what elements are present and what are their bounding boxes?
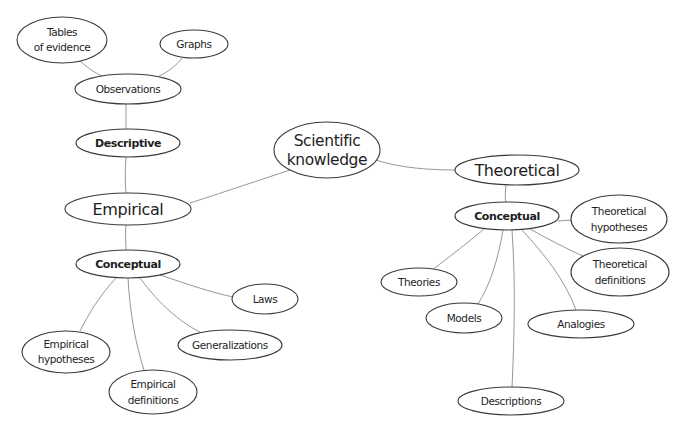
node-empirical-hypotheses[interactable]: Empirical hypotheses <box>22 331 110 373</box>
concept-map: Scientific knowledge Empirical Theoretic… <box>0 0 685 435</box>
node-label: of evidence <box>34 41 91 53</box>
edge-conceptual-theo-hypotheses <box>558 220 572 221</box>
node-theoretical-definitions[interactable]: Theoretical definitions <box>571 248 669 296</box>
node-label: Graphs <box>176 38 211 50</box>
edge-conceptual-models <box>478 230 503 304</box>
edge-conceptual-emp-hypotheses <box>80 278 116 331</box>
node-label: Empirical <box>43 338 88 350</box>
node-label: Theoretical <box>592 258 647 270</box>
node-descriptions[interactable]: Descriptions <box>458 387 564 415</box>
node-label: knowledge <box>287 151 367 169</box>
node-label: Models <box>447 312 482 324</box>
edge-conceptual-emp-definitions <box>128 278 144 370</box>
node-theoretical[interactable]: Theoretical <box>455 155 579 185</box>
edge-observations-graphs <box>159 58 182 76</box>
node-label: Empirical <box>130 378 175 390</box>
node-label: Descriptive <box>95 137 161 150</box>
node-label: Laws <box>253 293 278 305</box>
node-label: Observations <box>96 83 161 95</box>
edge-empirical-descriptive <box>125 157 126 193</box>
node-label: Analogies <box>557 318 605 330</box>
node-empirical-definitions[interactable]: Empirical definitions <box>109 370 197 414</box>
node-label: Conceptual <box>474 210 540 223</box>
node-models[interactable]: Models <box>426 303 502 333</box>
edge-science-theoretical <box>376 160 456 170</box>
node-label: Theoretical <box>474 161 560 180</box>
node-label: Conceptual <box>95 258 161 271</box>
edge-science-empirical <box>190 170 290 203</box>
node-graphs[interactable]: Graphs <box>160 30 228 58</box>
edge-conceptual-descriptions <box>512 230 514 388</box>
edge-conceptual-generalizations <box>140 278 200 332</box>
node-descriptive[interactable]: Descriptive <box>76 129 180 157</box>
node-tables-of-evidence[interactable]: Tables of evidence <box>17 17 107 63</box>
node-theoretical-conceptual[interactable]: Conceptual <box>455 202 559 230</box>
node-empirical[interactable]: Empirical <box>65 193 191 225</box>
node-analogies[interactable]: Analogies <box>528 310 634 338</box>
node-theories[interactable]: Theories <box>381 268 457 296</box>
node-laws[interactable]: Laws <box>232 284 298 314</box>
node-label: Generalizations <box>192 339 268 351</box>
node-label: hypotheses <box>591 221 648 233</box>
node-scientific-knowledge[interactable]: Scientific knowledge <box>274 122 380 178</box>
edge-observations-tables <box>80 61 102 76</box>
node-label: Tables <box>46 26 77 38</box>
node-label: Descriptions <box>481 395 541 407</box>
node-label: Empirical <box>93 200 164 219</box>
node-observations[interactable]: Observations <box>75 74 181 104</box>
edge-conceptual-laws <box>160 275 233 297</box>
edge-conceptual-analogies <box>522 230 576 310</box>
node-label: Scientific <box>294 132 361 150</box>
node-label: hypotheses <box>38 353 95 365</box>
node-label: Theoretical <box>591 205 646 217</box>
edge-conceptual-theo-definitions <box>530 229 583 256</box>
edge-conceptual-theories <box>432 229 484 270</box>
edge-theoretical-conceptual <box>505 185 506 203</box>
node-empirical-conceptual[interactable]: Conceptual <box>76 250 180 278</box>
node-label: Theories <box>397 276 440 288</box>
node-theoretical-hypotheses[interactable]: Theoretical hypotheses <box>571 195 667 243</box>
node-label: definitions <box>595 274 646 286</box>
node-generalizations[interactable]: Generalizations <box>178 330 282 360</box>
node-label: definitions <box>128 394 179 406</box>
